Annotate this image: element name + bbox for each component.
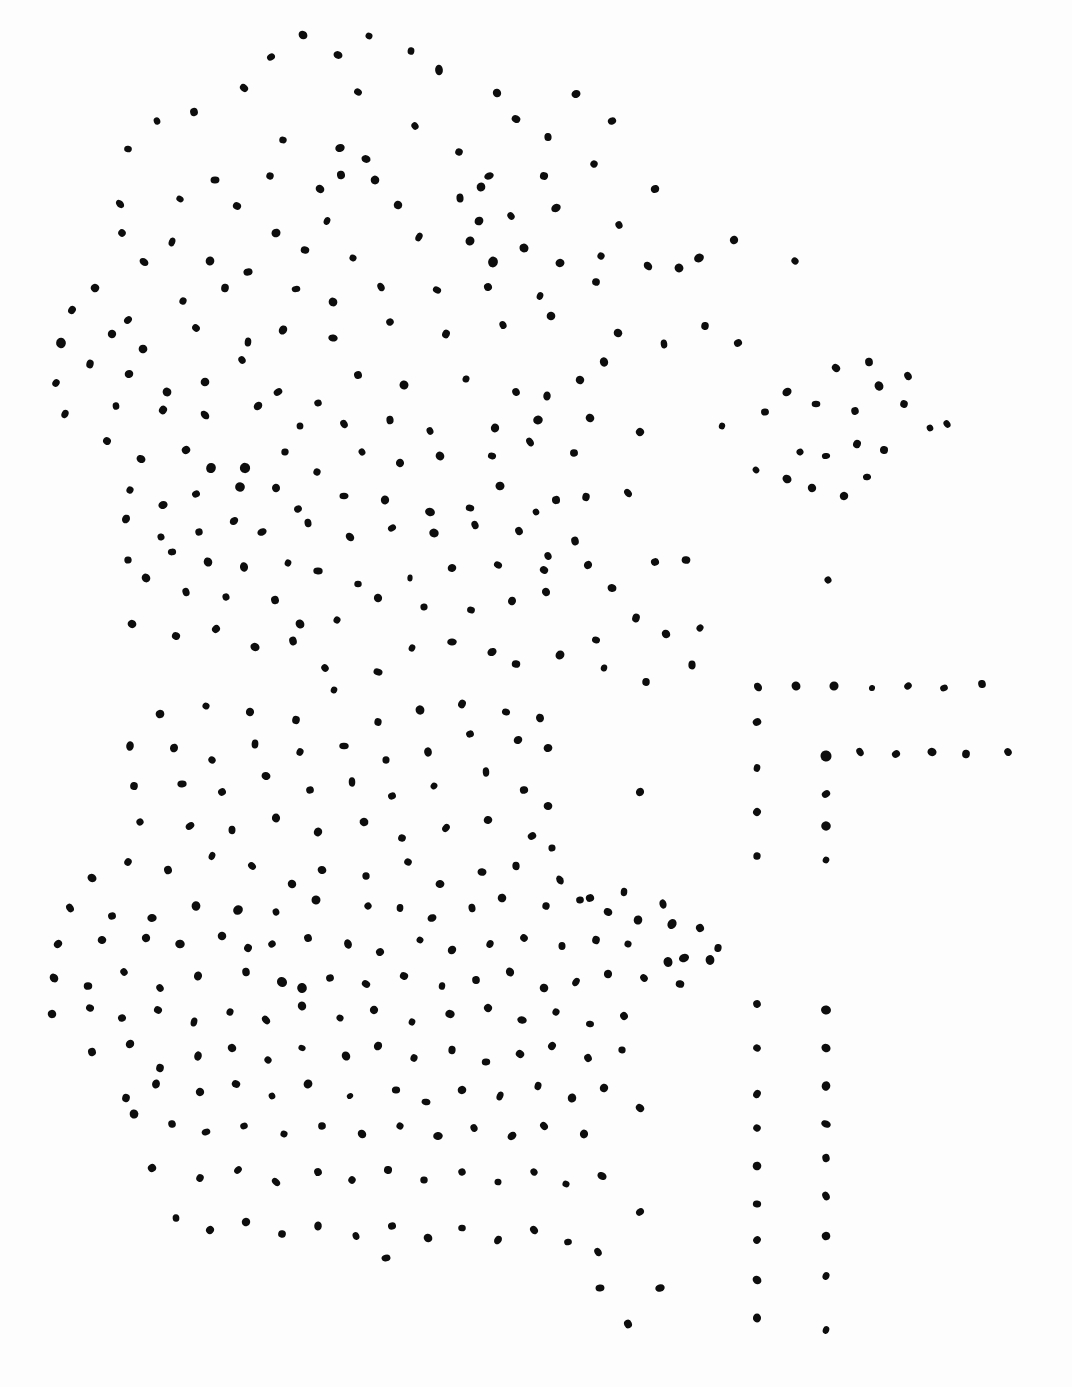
ink-dot [297, 422, 304, 429]
ink-dot [688, 661, 695, 670]
ink-dot [558, 942, 565, 950]
ink-dot [812, 401, 821, 407]
ink-dot [382, 756, 389, 764]
page-background [0, 0, 1072, 1387]
stipple-layer [0, 0, 1072, 1387]
stipple-drawing-canvas [0, 0, 1072, 1387]
